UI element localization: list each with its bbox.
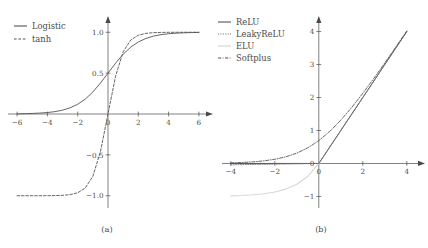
legend-label-softplus: Softplus bbox=[236, 53, 271, 63]
legend: Logistictanh bbox=[14, 21, 66, 44]
x-tick-label: 4 bbox=[166, 118, 171, 127]
x-tick-label: −2 bbox=[72, 118, 83, 127]
x-tick-label: −2 bbox=[269, 167, 280, 176]
x-tick-label: −6 bbox=[12, 118, 23, 127]
y-tick-label: −1.0 bbox=[86, 191, 104, 200]
x-tick-label: 2 bbox=[361, 167, 366, 176]
axes-group bbox=[8, 16, 213, 208]
legend: ReLULeakyReLUELUSoftplus bbox=[218, 17, 285, 63]
x-tick-label: −4 bbox=[225, 167, 236, 176]
chart-panel-b: −4−202443210−1ReLULeakyReLUELUSoftplus(b… bbox=[214, 0, 428, 248]
activation-functions-figure: −6−4−202461.00.5−0.5−1.0Logistictanh(a) … bbox=[0, 0, 428, 248]
y-tick-label: 3 bbox=[310, 60, 315, 69]
chart-svg-a: −6−4−202461.00.5−0.5−1.0Logistictanh(a) bbox=[0, 0, 214, 248]
x-axis-arrowhead bbox=[418, 161, 425, 166]
x-axis-arrowhead bbox=[206, 111, 213, 116]
legend-label-tanh: tanh bbox=[32, 34, 52, 44]
y-tick-label: 2 bbox=[310, 93, 315, 102]
y-tick-label: −0.5 bbox=[86, 151, 104, 160]
y-tick-label: 1 bbox=[310, 126, 315, 135]
panel-caption-b: (b) bbox=[315, 224, 327, 234]
y-axis-arrowhead bbox=[105, 16, 110, 23]
legend-label-elu: ELU bbox=[236, 41, 254, 51]
y-tick-label: 0.5 bbox=[92, 69, 104, 78]
legend-label-logistic: Logistic bbox=[32, 21, 66, 31]
x-tick-label: 2 bbox=[136, 118, 141, 127]
x-tick-label: 0 bbox=[317, 167, 322, 176]
chart-svg-b: −4−202443210−1ReLULeakyReLUELUSoftplus(b… bbox=[214, 0, 428, 248]
legend-label-relu: ReLU bbox=[236, 17, 259, 27]
y-tick-label: 4 bbox=[310, 27, 315, 36]
x-tick-label: 6 bbox=[197, 118, 202, 127]
y-tick-label: −1 bbox=[304, 192, 315, 201]
legend-label-leakyrelu: LeakyReLU bbox=[236, 29, 285, 39]
chart-panel-a: −6−4−202461.00.5−0.5−1.0Logistictanh(a) bbox=[0, 0, 214, 248]
panel-caption-a: (a) bbox=[101, 224, 112, 234]
x-tick-label: 4 bbox=[405, 167, 410, 176]
y-axis-arrowhead bbox=[316, 16, 321, 23]
x-tick-label: −4 bbox=[42, 118, 53, 127]
y-tick-label: 1.0 bbox=[92, 28, 104, 37]
